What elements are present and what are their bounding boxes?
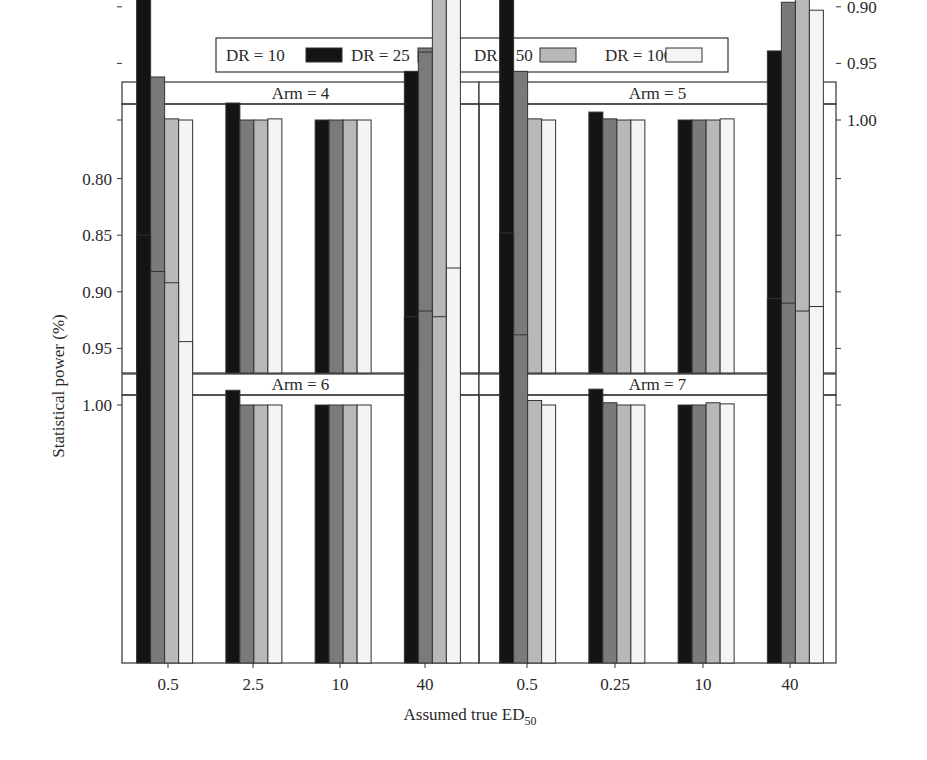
- bar: [781, 303, 795, 663]
- panels: Arm = 4Arm = 5Arm = 6Arm = 7: [122, 0, 836, 663]
- panel-title: Arm = 5: [629, 84, 687, 103]
- bar: [795, 311, 809, 663]
- bar: [315, 120, 329, 373]
- bar: [179, 342, 193, 663]
- legend-swatch: [306, 48, 342, 62]
- x-axis-label-subscript: 50: [524, 714, 536, 728]
- y-tick-label: 1.00: [82, 396, 112, 415]
- bar: [268, 405, 282, 663]
- bar: [528, 400, 542, 663]
- bar: [767, 299, 781, 663]
- bar: [226, 103, 240, 373]
- bar: [692, 120, 706, 373]
- bar: [542, 405, 556, 663]
- bar: [240, 405, 254, 663]
- bar: [514, 71, 528, 373]
- bar: [151, 271, 165, 663]
- bar: [603, 403, 617, 663]
- bar: [706, 120, 720, 373]
- bar: [589, 389, 603, 663]
- faceted-bar-chart: DR = 10DR = 25DR = 50DR = 100 Arm = 4Arm…: [0, 0, 927, 760]
- y-tick-label: 0.85: [82, 226, 112, 245]
- legend-label: DR = 25: [351, 46, 410, 65]
- bar: [343, 120, 357, 373]
- bar: [446, 268, 460, 663]
- bar: [631, 405, 645, 663]
- x-tick-label: 40: [417, 675, 434, 694]
- bar: [706, 403, 720, 663]
- bar: [617, 405, 631, 663]
- bar: [404, 317, 418, 663]
- bar: [528, 119, 542, 373]
- legend-label: DR = 10: [226, 46, 285, 65]
- bar: [268, 119, 282, 373]
- y-tick-label: 0.95: [82, 339, 112, 358]
- bar: [137, 235, 151, 663]
- x-tick-label: 40: [782, 675, 799, 694]
- bar: [226, 390, 240, 663]
- y-tick-label: 0.90: [847, 0, 877, 17]
- x-tick-label: 0.5: [157, 675, 178, 694]
- legend-label: DR = 100: [605, 46, 672, 65]
- x-axis-label: Assumed true ED50: [404, 705, 537, 728]
- bar: [500, 233, 514, 663]
- bar: [603, 119, 617, 373]
- bar: [357, 405, 371, 663]
- x-tick-label: 2.5: [242, 675, 263, 694]
- bar: [315, 405, 329, 663]
- y-tick-label: 0.80: [82, 170, 112, 189]
- bar: [165, 283, 179, 663]
- y-tick-label: 1.00: [847, 111, 877, 130]
- bar: [254, 405, 268, 663]
- panel-title: Arm = 7: [629, 375, 687, 394]
- bar: [240, 120, 254, 373]
- bar: [692, 405, 706, 663]
- bar: [357, 120, 371, 373]
- y-tick-label: 0.95: [847, 54, 877, 73]
- legend: DR = 10DR = 25DR = 50DR = 100: [216, 38, 728, 72]
- bar: [514, 335, 528, 663]
- x-axis-label-main: Assumed true ED: [404, 705, 525, 724]
- bar: [329, 405, 343, 663]
- y-axis-label: Statistical power (%): [49, 314, 68, 458]
- bar: [617, 120, 631, 373]
- x-tick-label: 0.25: [600, 675, 630, 694]
- bar: [678, 120, 692, 373]
- bar: [254, 120, 268, 373]
- legend-swatch: [540, 48, 576, 62]
- bar: [809, 307, 823, 663]
- bar: [179, 120, 193, 373]
- bar: [631, 120, 645, 373]
- bar: [542, 120, 556, 373]
- bar: [343, 405, 357, 663]
- y-tick-label: 0.90: [82, 283, 112, 302]
- x-tick-label: 0.5: [516, 675, 537, 694]
- bar: [678, 405, 692, 663]
- x-tick-label: 10: [695, 675, 712, 694]
- bar: [418, 311, 432, 663]
- bar: [720, 404, 734, 663]
- panel-title: Arm = 4: [272, 84, 330, 103]
- bar: [589, 112, 603, 373]
- panel-title: Arm = 6: [272, 375, 330, 394]
- bar: [432, 317, 446, 663]
- legend-swatch: [666, 48, 702, 62]
- bar: [329, 120, 343, 373]
- bar: [720, 119, 734, 373]
- x-tick-label: 10: [332, 675, 349, 694]
